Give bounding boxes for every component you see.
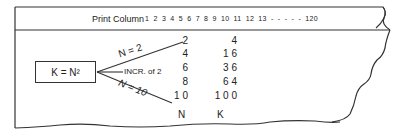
n-value: 8 — [158, 76, 188, 87]
k-value: 4 — [207, 35, 237, 46]
n-value: 1 0 — [158, 90, 188, 101]
formula-text: K = N² — [51, 67, 80, 78]
k-value: 3 6 — [207, 62, 237, 73]
k-value: 1 6 — [207, 48, 237, 59]
n-column-label: N — [178, 109, 185, 120]
print-column-label: Print Column — [92, 14, 144, 24]
k-value: 6 4 — [207, 76, 237, 87]
column-numbers: 1 2 3 4 5 6 7 8 9 10 11 12 13 - - - - - … — [145, 15, 318, 22]
formula-box: K = N² — [35, 61, 96, 83]
n-value: 4 — [158, 48, 188, 59]
k-value: 1 0 0 — [207, 90, 237, 101]
n-value: 2 — [158, 35, 188, 46]
n-value: 6 — [158, 62, 188, 73]
k-column-label: K — [217, 109, 224, 120]
branch-middle-label: INCR. of 2 — [124, 67, 161, 76]
